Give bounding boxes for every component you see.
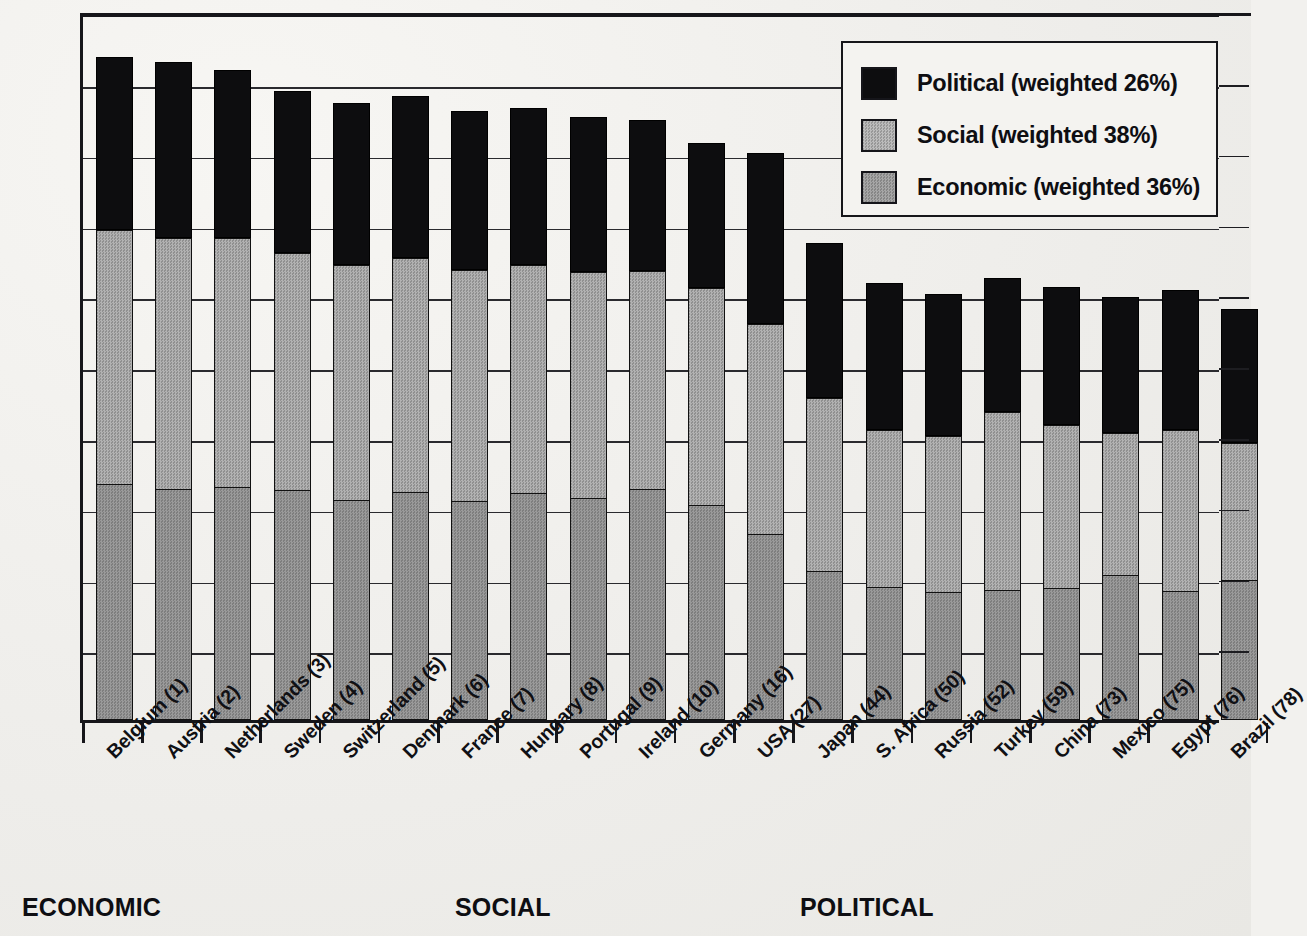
legend-label-social: Social (weighted 38%) — [917, 122, 1158, 149]
bar-segment-political — [984, 278, 1021, 412]
legend-swatch-political — [861, 67, 897, 100]
y-tick-mark — [1219, 368, 1249, 370]
y-tick-mark — [1219, 85, 1249, 87]
bar-segment-political — [747, 153, 784, 324]
footer-label-social: SOCIAL — [455, 893, 551, 922]
stacked-bar — [866, 283, 903, 720]
stacked-bar — [510, 108, 547, 720]
bar-segment-political — [1102, 297, 1139, 433]
stacked-bar — [392, 96, 429, 720]
y-tick-mark — [1219, 439, 1249, 441]
footer-label-political: POLITICAL — [800, 893, 934, 922]
bar-segment-political — [392, 96, 429, 258]
stacked-bar — [333, 103, 370, 720]
bar-segment-political — [155, 62, 192, 238]
stacked-bar — [925, 294, 962, 720]
stacked-bar — [155, 62, 192, 720]
bar-segment-political — [806, 243, 843, 398]
bar-segment-social — [866, 430, 903, 588]
stacked-bar — [274, 91, 311, 720]
bar-segment-social — [392, 258, 429, 492]
bar-segment-political — [333, 103, 370, 264]
stacked-bar — [1043, 287, 1080, 720]
bar-segment-political — [1221, 309, 1258, 444]
y-tick-mark — [1219, 297, 1249, 299]
stacked-bar — [688, 143, 725, 720]
stacked-bar — [629, 120, 666, 720]
bar-segment-social — [806, 398, 843, 572]
stacked-bar — [1221, 309, 1258, 720]
bar-segment-economic — [96, 485, 133, 720]
bar-segment-social — [1102, 433, 1139, 575]
stacked-bar — [214, 70, 251, 720]
bar-segment-political — [688, 143, 725, 288]
stacked-bar — [984, 278, 1021, 720]
y-tick-mark — [1219, 651, 1249, 653]
stacked-bar — [747, 153, 784, 720]
y-tick-mark — [1219, 581, 1249, 583]
bar-segment-political — [96, 57, 133, 230]
bar-segment-political — [451, 111, 488, 270]
bar-segment-social — [333, 265, 370, 501]
stacked-bar — [1162, 290, 1199, 720]
bar-segment-social — [688, 288, 725, 506]
bar-segment-social — [1221, 443, 1258, 580]
bar-segment-social — [629, 271, 666, 490]
legend-item-political[interactable]: Political (weighted 26%) — [861, 57, 1216, 109]
bar-segment-social — [747, 324, 784, 535]
bar-segment-social — [96, 230, 133, 485]
stacked-bar — [1102, 297, 1139, 720]
bar-segment-social — [451, 270, 488, 502]
legend-swatch-social — [861, 119, 897, 152]
bar-segment-political — [1043, 287, 1080, 426]
y-tick-mark — [1219, 227, 1249, 229]
chart-legend: Political (weighted 26%)Social (weighted… — [841, 41, 1218, 217]
bar-segment-political — [1162, 290, 1199, 430]
bar-segment-political — [510, 108, 547, 265]
y-tick-mark — [1219, 510, 1249, 512]
stacked-bar — [96, 57, 133, 720]
bar-segment-social — [510, 265, 547, 494]
bar-segment-political — [214, 70, 251, 238]
bar-segment-social — [1043, 425, 1080, 589]
y-tick-mark — [1219, 156, 1249, 158]
stacked-bar — [451, 111, 488, 720]
bar-segment-social — [1162, 430, 1199, 591]
footer-label-economic: ECONOMIC — [22, 893, 161, 922]
stacked-bar — [570, 117, 607, 720]
bar-segment-political — [629, 120, 666, 272]
bar-segment-political — [925, 294, 962, 436]
legend-item-social[interactable]: Social (weighted 38%) — [861, 109, 1216, 161]
bar-segment-social — [570, 272, 607, 499]
legend-label-political: Political (weighted 26%) — [917, 70, 1178, 97]
bar-segment-social — [984, 412, 1021, 591]
legend-label-economic: Economic (weighted 36%) — [917, 174, 1200, 201]
bar-segment-social — [925, 436, 962, 592]
bar-segment-social — [214, 238, 251, 489]
x-tick-mark — [82, 723, 85, 743]
bar-segment-social — [274, 253, 311, 490]
bar-segment-political — [570, 117, 607, 272]
stacked-bar — [806, 243, 843, 720]
bar-segment-political — [274, 91, 311, 254]
legend-item-economic[interactable]: Economic (weighted 36%) — [861, 161, 1216, 213]
legend-swatch-economic — [861, 171, 897, 204]
bar-segment-social — [155, 238, 192, 490]
bar-segment-political — [866, 283, 903, 430]
